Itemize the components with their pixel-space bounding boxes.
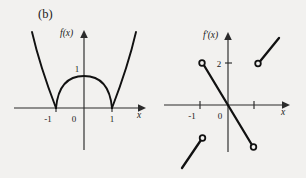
fprime-origin-label: 0 <box>218 111 223 121</box>
fprime-lower-left-segment <box>182 140 201 168</box>
f-xtick-label--1: -1 <box>44 114 52 124</box>
f-xtick-label-1: 1 <box>110 114 115 124</box>
figure-container: (b) f(x) x -1 0 1 <box>0 0 306 178</box>
part-label: (b) <box>38 7 53 21</box>
fprime-center-upper-open-circle <box>199 60 205 66</box>
fprime-lower-left-open-circle <box>200 135 206 141</box>
fprime-upper-right-segment <box>260 38 280 62</box>
fprime-y-axis-label: f'(x) <box>203 30 218 41</box>
f-y-axis-arrowhead <box>80 30 88 38</box>
graph-of-f: f(x) x -1 0 1 1 <box>14 28 146 150</box>
f-x-axis-label: x <box>136 110 142 120</box>
fprime-x-axis-label: x <box>280 107 286 117</box>
f-ytick-label-1: 1 <box>75 64 80 74</box>
f-right-branch <box>112 32 136 108</box>
fprime-upper-right-open-circle <box>255 61 261 67</box>
f-left-branch <box>32 32 56 108</box>
fprime-ytick-label-2: 2 <box>217 59 222 69</box>
f-origin-label: 0 <box>72 114 77 124</box>
fprime-xtick-label--1: -1 <box>188 111 196 121</box>
f-y-axis-label: f(x) <box>60 28 73 39</box>
fprime-y-axis-arrowhead <box>224 32 232 40</box>
graph-of-f-prime: f'(x) x -1 0 2 <box>164 30 290 168</box>
figure-svg: (b) f(x) x -1 0 1 <box>0 0 306 178</box>
fprime-center-lower-open-circle <box>251 144 257 150</box>
